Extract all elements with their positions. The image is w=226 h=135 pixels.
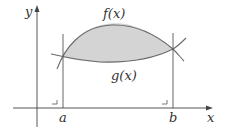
right-angle-mark-b	[162, 100, 167, 104]
x-axis-label: x	[207, 110, 215, 125]
bound-b-label: b	[169, 110, 177, 125]
shaded-region	[63, 23, 173, 62]
y-axis-label: y	[24, 4, 33, 19]
g-curve-label: g(x)	[111, 68, 137, 83]
area-between-curves-diagram: y x a b f(x) g(x)	[0, 0, 226, 135]
bound-a-label: a	[59, 110, 67, 125]
y-axis-arrow-icon	[35, 5, 40, 12]
f-curve-label: f(x)	[102, 6, 125, 21]
right-angle-mark-a	[52, 100, 57, 104]
